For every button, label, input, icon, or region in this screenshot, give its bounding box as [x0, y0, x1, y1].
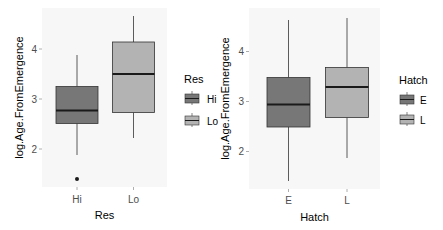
legend-title: Res — [184, 73, 204, 85]
legend-hatch: HatchEL — [399, 74, 428, 126]
y-tick-label: 4 — [31, 44, 37, 55]
x-tick-label: E — [285, 195, 292, 206]
legend-label: E — [420, 95, 427, 106]
y-tick-label: 3 — [238, 96, 244, 107]
legend-label: Hi — [207, 94, 216, 105]
legend-res: ResHiLo — [184, 73, 219, 127]
plot-panel-res: 234log.Age.FromEmergenceHiLoResResHiLo — [13, 8, 219, 221]
boxplot-figure: 234log.Age.FromEmergenceHiLoResResHiLo23… — [0, 0, 443, 230]
box-iqr — [326, 68, 369, 118]
plot-panel-hatch: 234log.Age.FromEmergenceELHatchHatchEL — [219, 8, 428, 223]
box-iqr — [267, 78, 310, 128]
x-tick-label: L — [344, 195, 350, 206]
y-tick-label: 2 — [238, 146, 244, 157]
y-tick-label: 4 — [238, 46, 244, 57]
y-tick-label: 3 — [31, 94, 37, 105]
y-axis-title: log.Age.FromEmergence — [219, 37, 231, 159]
x-tick-label: Hi — [72, 194, 81, 205]
legend-label: L — [420, 115, 426, 126]
legend-title: Hatch — [399, 74, 428, 86]
box-iqr — [113, 42, 155, 113]
x-axis-title: Res — [95, 209, 115, 221]
outlier-point — [75, 177, 79, 181]
legend-label: Lo — [207, 116, 219, 127]
y-axis-title: log.Age.FromEmergence — [13, 36, 25, 158]
x-axis-title: Hatch — [300, 211, 329, 223]
box-iqr — [56, 87, 98, 124]
x-tick-label: Lo — [128, 194, 140, 205]
y-tick-label: 2 — [31, 144, 37, 155]
